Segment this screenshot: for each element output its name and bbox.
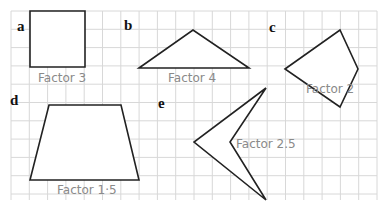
shape-label-e: e [158, 95, 165, 111]
shape-label-b: b [124, 17, 132, 33]
grid-diagram: aFactor 3bFactor 4cFactor 2dFactor 1·5eF… [0, 0, 386, 208]
shape-label-a: a [17, 18, 25, 34]
shape-label-d: d [10, 92, 19, 108]
scale-factor-a: Factor 3 [38, 71, 86, 85]
polygon-b [139, 30, 249, 68]
scale-factor-e: Factor 2.5 [236, 137, 296, 151]
shape-c: cFactor 2 [269, 19, 358, 107]
scale-factor-b: Factor 4 [168, 71, 216, 85]
polygon-d [30, 105, 139, 180]
shape-label-c: c [269, 19, 276, 35]
scale-factor-d: Factor 1·5 [57, 183, 117, 197]
shape-e: eFactor 2.5 [158, 88, 296, 200]
scale-factor-c: Factor 2 [306, 82, 354, 96]
shapes-layer: aFactor 3bFactor 4cFactor 2dFactor 1·5eF… [10, 11, 358, 200]
polygon-a [30, 11, 85, 67]
